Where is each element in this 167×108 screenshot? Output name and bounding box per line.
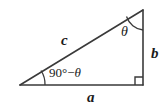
geometry-figure: c b a θ 90°−θ: [0, 0, 167, 108]
label-angle-theta: θ: [121, 25, 128, 39]
triangle-diagram-svg: [0, 0, 167, 108]
label-horizontal-leg-a: a: [87, 90, 95, 105]
label-angle-complement-theta: θ: [75, 65, 81, 80]
label-vertical-leg-b: b: [151, 46, 159, 61]
label-hypotenuse-c: c: [61, 33, 68, 48]
angle-arc-complement-icon: [41, 71, 45, 86]
right-angle-marker-icon: [135, 77, 143, 85]
hypotenuse-line-c: [20, 10, 143, 85]
label-angle-complement: 90°−θ: [49, 66, 81, 79]
label-angle-complement-prefix: 90°−: [49, 65, 75, 80]
